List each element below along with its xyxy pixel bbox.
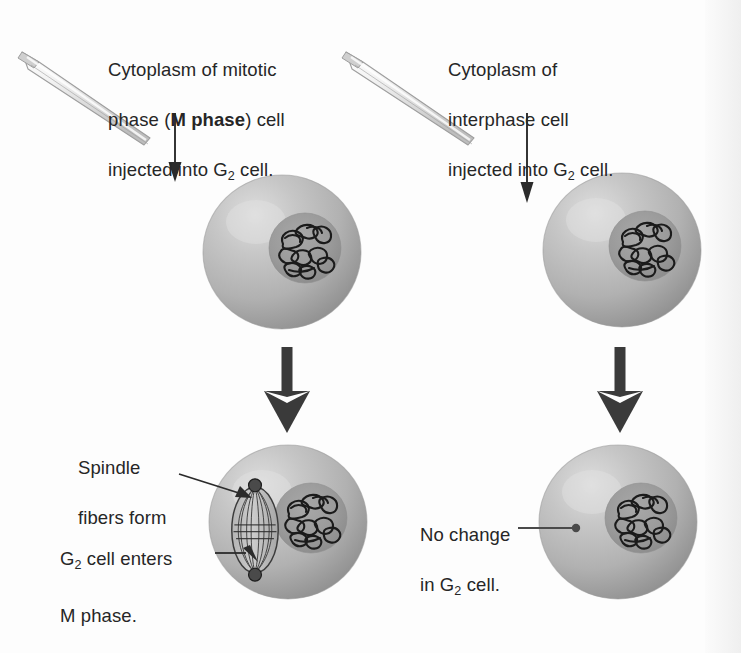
caption-left: Cytoplasm of mitotic phase (M phase) cel… bbox=[108, 32, 323, 214]
m-phase-bold: M phase bbox=[170, 109, 245, 130]
spindle-fibers-line1: Spindle bbox=[78, 455, 238, 480]
no-change-label: No change in G2 cell. bbox=[420, 497, 580, 629]
figure-canvas: Cytoplasm of mitotic phase (M phase) cel… bbox=[0, 0, 741, 653]
process-arrow-left bbox=[264, 347, 310, 433]
no-change-line1: No change bbox=[420, 522, 580, 547]
caption-right: Cytoplasm of interphase cell injected in… bbox=[448, 32, 663, 214]
process-arrow-right bbox=[597, 347, 643, 433]
g2-enters-line2: M phase. bbox=[60, 603, 245, 628]
caption-right-line2: interphase cell bbox=[448, 107, 663, 132]
caption-right-line1: Cytoplasm of bbox=[448, 57, 663, 82]
caption-right-line3: injected into G2 cell. bbox=[448, 157, 663, 189]
caption-left-line3: injected into G2 cell. bbox=[108, 157, 323, 189]
no-change-line2: in G2 cell. bbox=[420, 572, 580, 604]
caption-left-line1: Cytoplasm of mitotic bbox=[108, 57, 323, 82]
g2-enters-line1: G2 cell enters bbox=[60, 546, 245, 578]
g2-enters-m-phase-label: G2 cell enters M phase. bbox=[60, 521, 245, 653]
caption-left-line2: phase (M phase) cell bbox=[108, 107, 323, 132]
